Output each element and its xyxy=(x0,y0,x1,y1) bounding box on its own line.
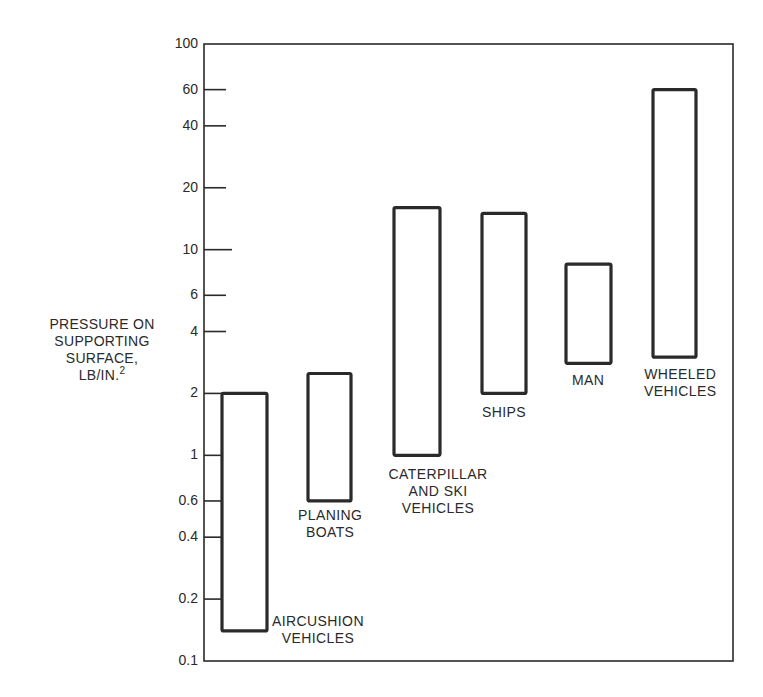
y-axis-unit-exponent: 2 xyxy=(119,365,125,376)
range-bar xyxy=(394,208,440,456)
y-tick-label: 100 xyxy=(158,35,198,51)
y-axis-label: PRESSURE ON SUPPORTING SURFACE, LB/IN.2 xyxy=(22,316,182,384)
bar-label: WHEELEDVEHICLES xyxy=(644,366,716,400)
range-bar xyxy=(482,213,526,393)
range-bar xyxy=(653,90,696,358)
bar-label-line: BOATS xyxy=(298,524,362,541)
bar-label-line: AIRCUSHION xyxy=(272,613,364,630)
y-tick-label: 10 xyxy=(158,241,198,257)
bar-label: SHIPS xyxy=(482,404,526,421)
bar-label-line: VEHICLES xyxy=(644,383,716,400)
y-tick-label: 40 xyxy=(158,117,198,133)
bar-label-line: VEHICLES xyxy=(389,500,488,517)
range-bar xyxy=(308,373,351,500)
y-tick-label: 2 xyxy=(158,384,198,400)
bar-label: MAN xyxy=(572,372,604,389)
y-tick-label: 60 xyxy=(158,81,198,97)
range-bar xyxy=(566,264,611,363)
y-tick-label: 0.1 xyxy=(158,652,198,668)
y-tick-label: 6 xyxy=(158,286,198,302)
bar-label: AIRCUSHIONVEHICLES xyxy=(272,613,364,647)
y-axis-label-line-3: SURFACE, xyxy=(22,350,182,367)
y-tick-label: 0.2 xyxy=(158,590,198,606)
bar-label: PLANINGBOATS xyxy=(298,507,362,541)
bar-label-line: VEHICLES xyxy=(272,630,364,647)
y-axis-label-line-4: LB/IN.2 xyxy=(22,367,182,384)
bar-label-line: PLANING xyxy=(298,507,362,524)
y-tick-label: 1 xyxy=(158,446,198,462)
bar-label-line: CATERPILLAR xyxy=(389,466,488,483)
y-tick-label: 0.6 xyxy=(158,492,198,508)
bar-label-line: SHIPS xyxy=(482,404,526,421)
y-axis-label-line-2: SUPPORTING xyxy=(22,333,182,350)
y-axis-label-line-1: PRESSURE ON xyxy=(22,316,182,333)
bar-label-line: AND SKI xyxy=(389,483,488,500)
range-bar xyxy=(222,393,267,631)
range-bars xyxy=(222,90,696,631)
y-tick-label: 20 xyxy=(158,179,198,195)
bar-label-line: WHEELED xyxy=(644,366,716,383)
y-tick-label: 0.4 xyxy=(158,528,198,544)
bar-label: CATERPILLARAND SKIVEHICLES xyxy=(389,466,488,517)
y-axis-unit: LB/IN. xyxy=(79,367,120,383)
bar-label-line: MAN xyxy=(572,372,604,389)
